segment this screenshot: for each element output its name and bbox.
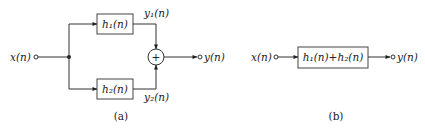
block-h1-plus-h2-label: h₁(n)+h₂(n) [303,51,364,63]
output-terminal-b [391,55,395,59]
branch2-output-line [133,65,156,89]
summer-plus: + [152,51,161,63]
input-label-a: x(n) [10,51,31,63]
input-label-b: x(n) [251,51,272,63]
caption-a: (a) [114,110,128,122]
block-h2-label: h₂(n) [102,83,128,95]
input-terminal-b [274,55,278,59]
output-label-a: y(n) [203,51,225,63]
output-terminal-a [198,55,202,59]
diagram-a: x(n) h₁(n) y₁(n) h₂(n) y₂(n) + y(n) (a) [10,7,225,122]
y2-label: y₂(n) [143,91,169,103]
output-label-b: y(n) [396,51,418,63]
diagram-b: x(n) h₁(n)+h₂(n) y(n) (b) [251,47,418,122]
caption-b: (b) [329,110,344,122]
branch1-output-line [133,24,156,49]
block-h1-label: h₁(n) [102,18,128,30]
parallel-system-diagrams: x(n) h₁(n) y₁(n) h₂(n) y₂(n) + y(n) (a) … [0,0,425,131]
input-terminal-a [34,55,38,59]
y1-label: y₁(n) [143,7,169,19]
